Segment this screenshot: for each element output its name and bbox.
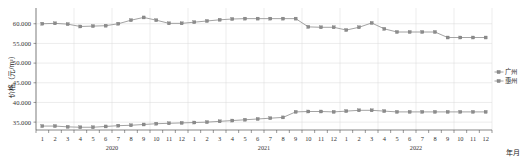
- data-point-marker: [434, 31, 437, 34]
- x-tick-label: 3: [370, 135, 373, 142]
- data-point-marker: [117, 124, 120, 127]
- data-point-marker: [244, 17, 247, 20]
- data-point-marker: [79, 126, 82, 129]
- data-point-marker: [358, 26, 361, 29]
- x-tick-label: 6: [256, 135, 259, 142]
- legend-group[interactable]: 广州惠州: [495, 67, 518, 84]
- data-point-marker: [218, 18, 221, 21]
- x-tick-label: 11: [470, 135, 476, 142]
- data-point-marker: [130, 19, 133, 22]
- data-point-marker: [282, 17, 285, 20]
- x-tick-label: 6: [408, 135, 411, 142]
- data-point-marker: [269, 17, 272, 20]
- legend-item-1[interactable]: 广州: [495, 67, 518, 76]
- year-group-label: 2021: [258, 144, 270, 151]
- data-point-marker: [92, 25, 95, 28]
- data-point-marker: [320, 26, 323, 29]
- data-point-marker: [383, 27, 386, 30]
- x-tick-label: 1: [41, 135, 44, 142]
- data-point-marker: [282, 116, 285, 119]
- x-tick-label: 10: [153, 135, 159, 142]
- x-tick-label: 1: [345, 135, 348, 142]
- data-point-marker: [168, 22, 171, 25]
- x-tick-label: 1: [193, 135, 196, 142]
- x-tick-label: 2: [53, 135, 56, 142]
- data-point-marker: [206, 19, 209, 22]
- data-point-marker: [446, 110, 449, 113]
- legend-marker-icon: [497, 79, 500, 82]
- data-point-marker: [383, 110, 386, 113]
- data-point-marker: [332, 26, 335, 29]
- data-point-marker: [345, 29, 348, 32]
- y-tick-label: 40.000: [13, 99, 32, 106]
- data-point-marker: [79, 25, 82, 28]
- x-tick-label: 9: [446, 135, 449, 142]
- data-point-marker: [142, 123, 145, 126]
- data-point-marker: [472, 110, 475, 113]
- data-point-marker: [206, 121, 209, 124]
- year-group-label: 2020: [106, 144, 118, 151]
- y-tick-label: 45.000: [13, 79, 32, 86]
- x-tick-label: 7: [117, 135, 121, 142]
- data-point-marker: [446, 36, 449, 39]
- legend-label: 惠州: [505, 76, 517, 84]
- y-axis-ticks-group: 35.00040.00045.00050.00055.00060.000: [13, 20, 36, 125]
- data-point-marker: [345, 110, 348, 113]
- data-point-marker: [155, 122, 158, 125]
- data-point-marker: [370, 109, 373, 112]
- data-point-marker: [180, 22, 183, 25]
- y-tick-label: 35.000: [13, 119, 32, 126]
- y-axis-title: 价格（元/m²）: [7, 52, 16, 97]
- data-point-marker: [269, 117, 272, 120]
- data-point-marker: [54, 22, 57, 25]
- year-labels-group: 202020212022: [106, 144, 422, 151]
- data-point-marker: [66, 125, 69, 128]
- data-point-marker: [307, 25, 310, 28]
- data-point-marker: [307, 110, 310, 113]
- x-tick-label: 10: [305, 135, 311, 142]
- legend-item-2[interactable]: 惠州: [495, 76, 518, 84]
- data-point-marker: [459, 36, 462, 39]
- data-point-marker: [231, 119, 234, 122]
- data-point-marker: [459, 110, 462, 113]
- data-point-marker: [104, 125, 107, 128]
- x-tick-label: 4: [231, 135, 235, 142]
- x-tick-label: 4: [383, 135, 387, 142]
- x-tick-label: 5: [243, 135, 246, 142]
- x-tick-label: 8: [129, 135, 132, 142]
- data-point-marker: [54, 125, 57, 128]
- x-tick-label: 5: [91, 135, 94, 142]
- data-point-marker: [180, 121, 183, 124]
- data-point-marker: [484, 110, 487, 113]
- data-point-marker: [168, 122, 171, 125]
- x-tick-label: 2: [205, 135, 208, 142]
- x-tick-label: 12: [482, 135, 488, 142]
- x-axis-ticks-group: [36, 130, 492, 133]
- chart-canvas: 35.00040.00045.00050.00055.00060.000 123…: [0, 0, 531, 160]
- data-point-marker: [41, 22, 44, 25]
- data-point-marker: [256, 17, 259, 20]
- data-point-marker: [142, 16, 145, 19]
- x-tick-label: 6: [104, 135, 107, 142]
- x-tick-label: 3: [66, 135, 69, 142]
- data-point-marker: [408, 110, 411, 113]
- x-tick-label: 4: [79, 135, 83, 142]
- data-point-marker: [294, 110, 297, 113]
- data-point-marker: [130, 124, 133, 127]
- data-point-marker: [92, 126, 95, 129]
- legend-label: 广州: [505, 67, 517, 76]
- data-point-marker: [396, 31, 399, 34]
- x-tick-label: 7: [421, 135, 425, 142]
- data-point-marker: [408, 31, 411, 34]
- data-point-marker: [434, 110, 437, 113]
- x-tick-label: 11: [166, 135, 172, 142]
- data-point-marker: [396, 110, 399, 113]
- price-trend-chart: 35.00040.00045.00050.00055.00060.000 123…: [0, 0, 531, 160]
- x-tick-label: 10: [457, 135, 463, 142]
- data-point-marker: [66, 23, 69, 26]
- data-point-marker: [218, 120, 221, 123]
- data-point-marker: [193, 121, 196, 124]
- x-tick-label: 2: [357, 135, 360, 142]
- y-tick-label: 55.000: [13, 40, 32, 47]
- x-axis-title: 年月: [506, 148, 520, 157]
